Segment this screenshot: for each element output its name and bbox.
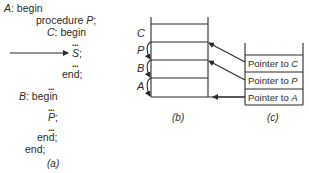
pointer-cell-c: Pointer to C — [248, 58, 298, 69]
pointer-cell-a: Pointer to A — [248, 92, 298, 103]
frame-label-p: P — [137, 44, 144, 56]
frame-label-c: C — [137, 27, 145, 39]
diagram-lines — [0, 0, 309, 173]
pointer-c-arrow — [209, 43, 245, 62]
frame-label-b: B — [137, 62, 144, 74]
caption-b: (b) — [172, 112, 184, 123]
static-link-arrow — [147, 42, 151, 59]
pointer-cell-p: Pointer to P — [248, 75, 298, 86]
pointer-p-arrow — [209, 61, 245, 80]
frame-label-a: A — [137, 80, 144, 92]
caption-c: (c) — [267, 112, 279, 123]
static-link-arrow — [147, 78, 151, 96]
static-link-arrow — [147, 60, 151, 77]
